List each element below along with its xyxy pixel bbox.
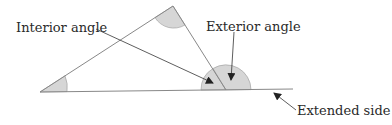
triangle-angle-diagram: Interior angle Exterior angle Extended s… (0, 0, 392, 125)
extended-side-arrow (274, 93, 296, 110)
interior-angle-arrow (96, 29, 213, 83)
exterior-angle-label: Exterior angle (206, 20, 301, 33)
triangle-base-extended (40, 89, 293, 92)
triangle-left-side (40, 6, 173, 92)
extended-side-label: Extended side (297, 104, 390, 117)
interior-angle-label: Interior angle (16, 21, 107, 34)
